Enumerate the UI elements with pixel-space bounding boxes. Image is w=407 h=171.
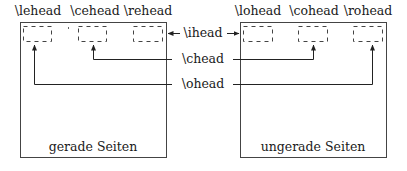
rohead-label: \rohead: [344, 4, 393, 18]
odd-page-frame: [241, 23, 387, 158]
odd-page-caption: ungerade Seiten: [261, 140, 366, 154]
odd-right-header-slot: [354, 27, 383, 42]
even-right-header-slot: [134, 27, 163, 42]
ohead-connector-left: [35, 45, 173, 85]
ohead-label: \ohead: [180, 77, 227, 91]
ihead-label: \ihead: [181, 26, 224, 40]
chead-label: \chead: [180, 52, 226, 66]
cehead-label: \cehead: [70, 4, 120, 18]
lohead-label: \lohead: [235, 4, 282, 18]
separator-dot: [68, 27, 69, 29]
ohead-connector-right: [233, 45, 373, 85]
rehead-label: \rehead: [124, 4, 173, 18]
lehead-label: \lehead: [15, 4, 62, 18]
even-page-frame: [21, 23, 167, 158]
even-center-header-slot: [79, 27, 107, 42]
cohead-label: \cohead: [289, 4, 339, 18]
odd-center-header-slot: [299, 27, 328, 42]
even-page-caption: gerade Seiten: [49, 140, 138, 154]
chead-connector-right: [233, 45, 314, 60]
chead-connector-left: [94, 45, 173, 60]
odd-left-header-slot: [244, 27, 273, 42]
even-left-header-slot: [24, 27, 52, 42]
